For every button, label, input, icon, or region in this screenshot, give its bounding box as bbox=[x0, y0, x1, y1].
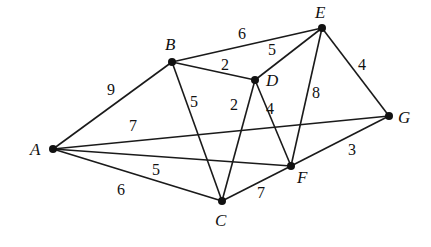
edge-A-B bbox=[53, 62, 172, 149]
node-B bbox=[168, 58, 176, 66]
node-E bbox=[318, 24, 326, 32]
edge-B-C bbox=[172, 62, 222, 201]
edge-weight-A-C: 6 bbox=[117, 181, 125, 198]
node-label-A: A bbox=[29, 140, 41, 159]
edge-weight-E-F: 8 bbox=[312, 84, 320, 101]
node-D bbox=[251, 76, 259, 84]
node-label-B: B bbox=[165, 35, 176, 54]
node-C bbox=[218, 197, 226, 205]
graph-edges bbox=[53, 28, 389, 201]
edge-weight-B-D: 2 bbox=[221, 56, 229, 73]
node-F bbox=[287, 162, 295, 170]
edge-weight-A-B: 9 bbox=[107, 81, 115, 98]
edge-E-G bbox=[322, 28, 389, 116]
node-label-C: C bbox=[215, 211, 227, 230]
node-label-F: F bbox=[296, 168, 308, 187]
edge-weight-B-C: 5 bbox=[190, 93, 198, 110]
node-label-G: G bbox=[398, 108, 410, 127]
edge-weight-B-E: 6 bbox=[238, 25, 246, 42]
edge-B-D bbox=[172, 62, 255, 80]
node-A bbox=[49, 145, 57, 153]
node-G bbox=[385, 112, 393, 120]
edge-D-F bbox=[255, 80, 291, 166]
edge-weight-E-G: 4 bbox=[358, 56, 366, 73]
edge-weight-D-E: 5 bbox=[268, 41, 276, 58]
edge-A-F bbox=[53, 149, 291, 166]
edge-weight-A-F: 5 bbox=[152, 161, 160, 178]
edge-D-C bbox=[222, 80, 255, 201]
weighted-graph: 97566255248437ABCDEFG bbox=[0, 0, 431, 247]
edge-weight-C-F: 7 bbox=[257, 184, 265, 201]
node-label-E: E bbox=[314, 3, 326, 22]
edge-A-C bbox=[53, 149, 222, 201]
edge-A-G bbox=[53, 116, 389, 149]
edge-weight-D-C: 2 bbox=[230, 96, 238, 113]
edge-weight-A-G: 7 bbox=[129, 117, 137, 134]
node-label-D: D bbox=[265, 71, 279, 90]
edge-weight-G-F: 3 bbox=[348, 141, 356, 158]
edge-weight-D-F: 4 bbox=[266, 100, 274, 117]
